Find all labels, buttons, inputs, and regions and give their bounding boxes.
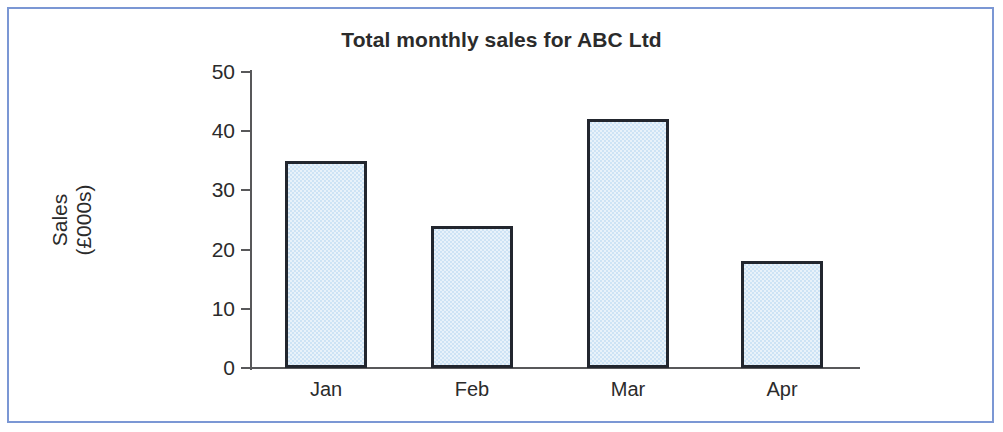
chart-title: Total monthly sales for ABC Ltd	[0, 28, 1003, 52]
y-axis-tick-label: 20	[175, 238, 235, 262]
y-axis-tick	[241, 308, 250, 310]
bar-apr	[741, 261, 823, 368]
y-axis-tick-label: 10	[175, 297, 235, 321]
x-axis-label-feb: Feb	[412, 378, 532, 401]
y-axis-tick-label: 30	[175, 178, 235, 202]
x-axis-label-mar: Mar	[568, 378, 688, 401]
y-axis-tick	[241, 249, 250, 251]
y-axis-tick	[241, 71, 250, 73]
bar-jan	[285, 161, 367, 368]
y-axis-title-line-2: (£000s)	[72, 184, 96, 255]
y-axis-tick-label: 0	[175, 356, 235, 380]
x-axis-label-apr: Apr	[722, 378, 842, 401]
y-axis-title-line-1: Sales	[48, 184, 72, 255]
bar-mar	[587, 119, 669, 368]
plot-area	[250, 72, 860, 368]
y-axis-tick-label: 40	[175, 119, 235, 143]
y-axis-tick-labels: 01020304050	[165, 0, 235, 432]
y-axis-title: Sales (£000s)	[0, 135, 157, 305]
x-axis-label-jan: Jan	[266, 378, 386, 401]
bar-feb	[431, 226, 513, 368]
y-axis-tick-label: 50	[175, 60, 235, 84]
y-axis-tick	[241, 189, 250, 191]
y-axis-tick	[241, 367, 250, 369]
chart-figure: Total monthly sales for ABC Ltd Sales (£…	[0, 0, 1003, 432]
y-axis-tick	[241, 130, 250, 132]
